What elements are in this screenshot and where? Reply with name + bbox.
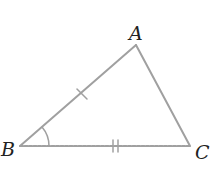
side-ab (20, 45, 136, 146)
triangle-diagram: A B C (0, 0, 224, 176)
side-ac (136, 45, 190, 146)
vertex-label-a: A (127, 22, 143, 44)
vertex-label-b: B (0, 138, 15, 160)
vertex-label-c: C (195, 141, 210, 163)
angle-b-arc (42, 127, 49, 146)
